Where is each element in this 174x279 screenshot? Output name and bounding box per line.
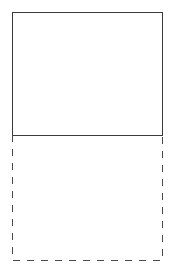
solid-rectangle [12, 12, 163, 136]
dashed-outline [12, 135, 163, 261]
dashed-rectangle [12, 135, 163, 261]
